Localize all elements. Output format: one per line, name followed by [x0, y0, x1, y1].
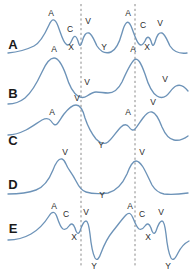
waveform-canvas — [0, 0, 194, 270]
row-label-a: A — [8, 38, 17, 51]
row-d-wave-label-v2: V — [139, 148, 145, 157]
waveform-trace-c — [8, 105, 188, 143]
row-a-wave-label-a1: A — [48, 9, 54, 18]
row-e-wave-label-v1: V — [83, 208, 89, 217]
row-c-wave-label-a1: A — [49, 108, 55, 117]
row-b-wave-label-v2: V — [162, 75, 168, 84]
row-c-wave-label-y1: Y — [98, 141, 104, 150]
row-e-wave-label-y1: Y — [91, 262, 97, 270]
row-e-wave-label-x1: X — [71, 233, 77, 242]
row-e-wave-label-c1: C — [63, 210, 69, 219]
jvp-waveform-figure: AACVXYACVXBAVAVCAVYAVDVYVEACVXYACVXY — [0, 0, 194, 270]
row-c-wave-label-v2: V — [150, 98, 156, 107]
waveform-trace-b — [8, 58, 188, 104]
row-b-wave-label-a2: A — [130, 45, 136, 54]
row-a-wave-label-x1: X — [68, 43, 74, 52]
row-e-wave-label-a2: A — [127, 202, 133, 211]
row-d-wave-label-y1: Y — [99, 191, 105, 200]
waveform-trace-e — [8, 212, 189, 259]
row-a-wave-label-y1: Y — [101, 43, 107, 52]
row-b-wave-label-a1: A — [51, 45, 57, 54]
row-a-wave-label-x2: X — [144, 43, 150, 52]
row-a-wave-label-c2: C — [140, 21, 146, 30]
row-a-wave-label-c1: C — [67, 25, 73, 34]
row-e-wave-label-v2: V — [158, 208, 164, 217]
waveform-trace-d — [8, 159, 188, 195]
row-label-c: C — [8, 134, 17, 147]
row-label-b: B — [8, 87, 17, 100]
row-a-wave-label-v1: V — [85, 17, 91, 26]
row-label-d: D — [8, 178, 17, 191]
row-e-wave-label-y2: Y — [165, 262, 171, 270]
row-e-wave-label-x2: X — [145, 233, 151, 242]
row-label-e: E — [9, 222, 18, 235]
row-a-wave-label-a2: A — [125, 9, 131, 18]
row-e-wave-label-c2: C — [139, 210, 145, 219]
row-e-wave-label-a1: A — [51, 202, 57, 211]
row-d-wave-label-v1: V — [62, 148, 68, 157]
row-c-wave-label-a2: A — [125, 108, 131, 117]
row-b-wave-label-v1: V — [84, 78, 90, 87]
row-a-wave-label-v2: V — [157, 19, 163, 28]
row-c-wave-label-v1: V — [74, 94, 80, 103]
